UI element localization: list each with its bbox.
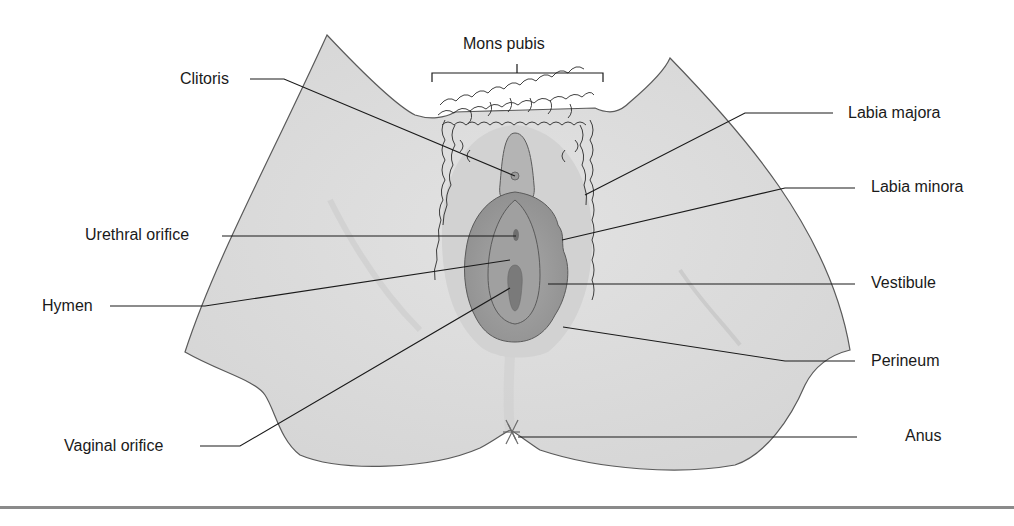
- label-mons-pubis: Mons pubis: [463, 35, 545, 53]
- label-vestibule: Vestibule: [871, 274, 936, 292]
- label-labia-majora: Labia majora: [848, 104, 941, 122]
- label-perineum: Perineum: [871, 352, 939, 370]
- label-hymen: Hymen: [42, 297, 93, 315]
- label-vaginal-orifice: Vaginal orifice: [64, 437, 163, 455]
- anatomy-diagram: Mons pubis Clitoris Labia majora Labia m…: [0, 0, 1014, 526]
- label-labia-minora: Labia minora: [871, 178, 964, 196]
- label-anus: Anus: [905, 427, 941, 445]
- bottom-divider: [0, 506, 1014, 509]
- label-clitoris: Clitoris: [180, 70, 229, 88]
- urethral-orifice-shape: [513, 229, 519, 241]
- label-urethral-orifice: Urethral orifice: [85, 226, 189, 244]
